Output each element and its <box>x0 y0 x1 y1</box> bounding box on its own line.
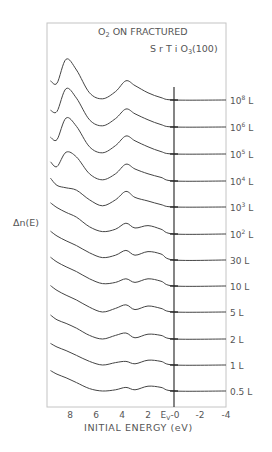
plot-frame <box>47 23 226 407</box>
exposure-label: 105 L <box>230 148 253 160</box>
exposure-label: 106 L <box>230 121 253 133</box>
spectrum-trace <box>51 315 227 339</box>
photoemission-spectra-chart: O2 ON FRACTURED S r T i O3(100) Δn(E) 10… <box>0 0 272 452</box>
exposure-label: 104 L <box>230 175 253 187</box>
chart-title-line1: O2 ON FRACTURED <box>98 26 188 39</box>
exposure-label: 102 L <box>230 228 253 240</box>
exposure-label: 5 L <box>230 308 244 318</box>
spectra-figure: O2 ON FRACTURED S r T i O3(100) Δn(E) 10… <box>0 0 272 452</box>
spectrum-trace <box>51 231 227 260</box>
spectrum-trace <box>51 343 227 365</box>
spectrum-trace <box>51 152 227 182</box>
spectrum-trace <box>51 257 227 286</box>
x-tick-label: 4 <box>119 410 125 420</box>
exposure-label: 10 L <box>230 282 249 292</box>
spectrum-trace <box>51 178 227 207</box>
x-tick-label: 6 <box>93 410 99 420</box>
y-axis-label: Δn(E) <box>13 217 39 228</box>
exposure-label: 103 L <box>230 201 253 213</box>
spectrum-traces <box>51 59 227 391</box>
x-tick-label: 8 <box>67 410 73 420</box>
exposure-label: 2 L <box>230 335 244 345</box>
chart-title-line2: S r T i O3(100) <box>150 43 218 56</box>
exposure-label: 108 L <box>230 94 253 106</box>
x-tick-label: EV-0 <box>161 410 180 421</box>
x-tick-label: 2 <box>145 410 151 420</box>
exposure-label: 30 L <box>230 256 249 266</box>
spectrum-trace <box>51 286 227 313</box>
x-axis-label: INITIAL ENERGY (eV) <box>84 422 193 433</box>
x-axis-tick-labels: 8642EV-0-2-4 <box>67 410 231 421</box>
spectrum-trace <box>51 59 227 100</box>
spectrum-trace <box>51 371 227 392</box>
x-tick-label: -4 <box>222 410 231 420</box>
spectrum-trace <box>51 88 227 127</box>
exposure-labels: 108 L106 L105 L104 L103 L102 L30 L10 L5 … <box>230 94 253 397</box>
exposure-label: 1 L <box>230 361 244 371</box>
spectrum-trace <box>51 118 227 155</box>
x-tick-label: -2 <box>196 410 205 420</box>
exposure-label: 0.5 L <box>230 387 252 397</box>
